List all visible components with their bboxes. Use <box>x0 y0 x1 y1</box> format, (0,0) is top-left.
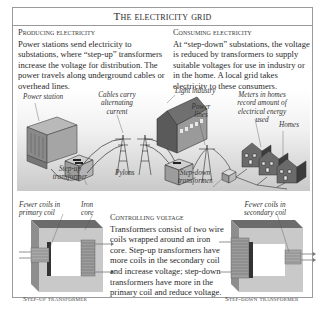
producing-section: Producing electricity Power stations sen… <box>18 28 166 92</box>
controlling-section: Controlling voltage Transformers consist… <box>110 213 228 298</box>
label-fewer-coils-secondary: Fewer coils in secondary coil <box>239 201 291 218</box>
consuming-body: At “step-down” substations, the voltage … <box>173 39 313 92</box>
diagram-frame: The electricity grid Producing electrici… <box>12 7 313 298</box>
consuming-section: Consuming electricity At “step-down” sub… <box>173 28 313 92</box>
label-light-industry: Light industry <box>175 87 216 95</box>
label-fewer-coils-primary: Fewer coils in primary coil <box>19 201 63 218</box>
producing-heading: Producing electricity <box>18 28 166 39</box>
label-power-lines: Power lines <box>187 103 215 120</box>
label-meters: Meters in homes record amount of electri… <box>231 91 293 125</box>
label-step-up-transformer: Step-up transformer <box>51 165 89 182</box>
step-down-transformer-icon <box>222 169 236 183</box>
controlling-heading: Controlling voltage <box>110 213 228 224</box>
controlling-body: Transformers consist of two wire coils w… <box>110 224 228 298</box>
label-homes: Homes <box>279 121 299 129</box>
consuming-heading: Consuming electricity <box>173 28 313 39</box>
step-up-transformer-graphic <box>19 220 119 300</box>
producing-body: Power stations send electricity to subst… <box>18 39 166 92</box>
label-pylons: Pylons <box>115 169 135 177</box>
label-iron-core: Iron core <box>81 201 103 218</box>
diagram-title: The electricity grid <box>13 8 312 26</box>
caption-step-up-transformer: Step-up transformer <box>23 295 87 303</box>
step-down-transformer-graphic <box>219 220 319 300</box>
label-step-down-transformer: Step-down transformer <box>173 169 217 186</box>
caption-step-down-transformer: Step-down transformer <box>225 295 299 303</box>
label-power-station: Power station <box>23 93 63 101</box>
label-cables: Cables carry alternating current <box>91 91 143 116</box>
grid-illustration: Power station Cables carry alternating c… <box>17 89 310 191</box>
